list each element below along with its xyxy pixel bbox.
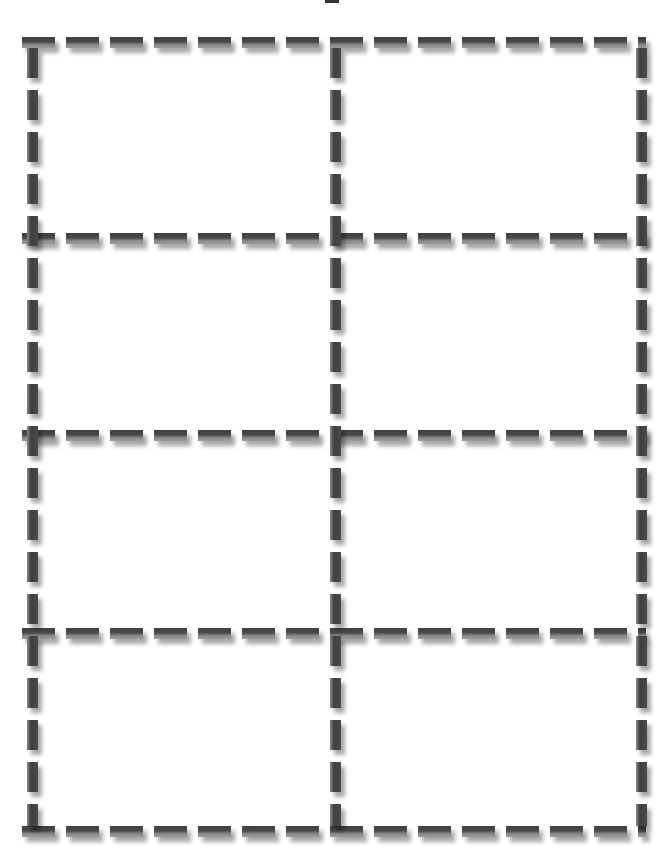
top-border-dash <box>242 37 275 48</box>
left-border-dash <box>27 468 38 498</box>
row-divider-dash <box>550 233 583 244</box>
row-divider-dash <box>418 430 451 441</box>
top-border-dash <box>110 37 143 48</box>
right-border-dash <box>636 300 647 330</box>
row-divider-dash <box>198 628 231 639</box>
row-divider-dash <box>462 430 495 441</box>
right-border-dash <box>636 174 647 204</box>
top-border-dash <box>594 37 627 48</box>
bottom-border-dash <box>286 826 319 837</box>
grid-cell <box>38 441 330 628</box>
right-border-dash <box>636 594 647 624</box>
top-border-dash <box>286 37 319 48</box>
bottom-border-dash <box>242 826 275 837</box>
bottom-border-dash <box>66 826 99 837</box>
right-border-dash <box>636 258 647 288</box>
top-border-dash <box>462 37 495 48</box>
bottom-border-dash <box>418 826 451 837</box>
bottom-border-dash <box>374 826 407 837</box>
column-divider-dash <box>330 594 341 624</box>
grid-cell <box>341 48 636 233</box>
right-border-dash <box>636 216 647 246</box>
row-divider-dash <box>286 233 319 244</box>
top-border-dash <box>330 37 363 48</box>
right-border-dash <box>636 804 647 826</box>
left-border-dash <box>27 804 38 826</box>
column-divider-dash <box>330 552 341 582</box>
row-divider-dash <box>506 233 539 244</box>
column-divider-dash <box>330 426 341 456</box>
left-border-dash <box>27 48 38 78</box>
right-border-dash <box>636 678 647 708</box>
left-border-dash <box>27 510 38 540</box>
row-divider-dash <box>154 628 187 639</box>
left-border-dash <box>27 426 38 456</box>
row-divider-dash <box>198 430 231 441</box>
row-divider-dash <box>506 430 539 441</box>
left-border-dash <box>27 342 38 372</box>
row-divider-dash <box>198 233 231 244</box>
bottom-border-dash <box>154 826 187 837</box>
bottom-border-dash <box>462 826 495 837</box>
top-border-dash <box>418 37 451 48</box>
bottom-border-dash <box>594 826 627 837</box>
top-border-dash <box>550 37 583 48</box>
row-divider-dash <box>594 430 627 441</box>
row-divider-dash <box>242 233 275 244</box>
top-border-dash <box>66 37 99 48</box>
bottom-border-dash <box>110 826 143 837</box>
column-divider-dash <box>330 342 341 372</box>
dashed-grid-template <box>0 0 671 850</box>
right-border-dash <box>636 468 647 498</box>
row-divider-dash <box>374 430 407 441</box>
bottom-border-dash <box>506 826 539 837</box>
right-border-dash <box>636 132 647 162</box>
column-divider-dash <box>330 48 341 78</box>
row-divider-dash <box>594 628 627 639</box>
grid-cell <box>38 48 330 233</box>
row-divider-dash <box>594 233 627 244</box>
left-border-dash <box>27 552 38 582</box>
row-divider-dash <box>550 430 583 441</box>
left-border-dash <box>27 216 38 246</box>
left-border-dash <box>27 132 38 162</box>
column-divider-dash <box>330 174 341 204</box>
right-border-dash <box>636 762 647 792</box>
grid-cell <box>341 244 636 430</box>
top-border-dash <box>638 37 646 48</box>
row-divider-dash <box>462 233 495 244</box>
grid-cell <box>38 639 330 826</box>
row-divider-dash <box>506 628 539 639</box>
left-border-dash <box>27 594 38 624</box>
top-border-dash <box>374 37 407 48</box>
column-divider-dash <box>330 132 341 162</box>
row-divider-dash <box>66 233 99 244</box>
bottom-border-dash <box>22 826 55 837</box>
left-border-dash <box>27 636 38 666</box>
row-divider-dash <box>462 628 495 639</box>
right-border-dash <box>636 426 647 456</box>
top-border-dash <box>506 37 539 48</box>
column-divider-dash <box>330 216 341 246</box>
row-divider-dash <box>242 628 275 639</box>
right-border-dash <box>636 720 647 750</box>
column-divider-dash <box>330 90 341 120</box>
left-border-dash <box>27 384 38 414</box>
left-border-dash <box>27 300 38 330</box>
row-divider-dash <box>154 233 187 244</box>
column-divider-dash <box>330 510 341 540</box>
column-divider-dash <box>330 636 341 666</box>
row-divider-dash <box>110 233 143 244</box>
bottom-border-dash <box>330 826 363 837</box>
row-divider-dash <box>154 430 187 441</box>
column-divider-dash <box>330 468 341 498</box>
row-divider-dash <box>110 628 143 639</box>
right-border-dash <box>636 636 647 666</box>
left-border-dash <box>27 174 38 204</box>
grid-cell <box>341 441 636 628</box>
left-border-dash <box>27 720 38 750</box>
right-border-dash <box>636 48 647 78</box>
grid-cell <box>341 639 636 826</box>
bottom-border-dash <box>638 826 646 837</box>
row-divider-dash <box>374 233 407 244</box>
